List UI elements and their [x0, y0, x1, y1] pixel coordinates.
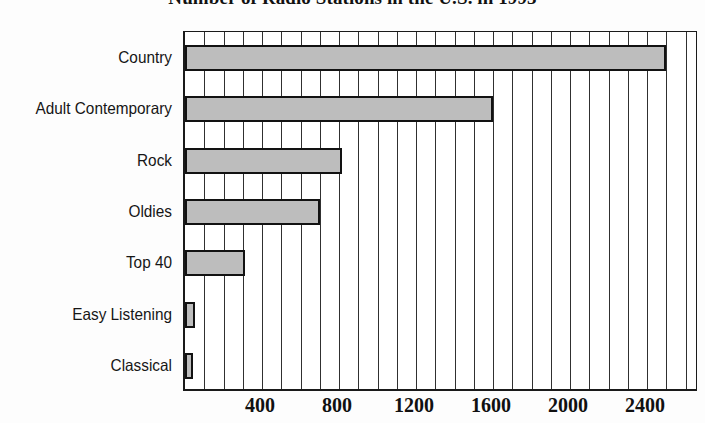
x-tick-label: 1200	[394, 394, 434, 417]
x-axis-tick-labels: 4008001200160020002400	[183, 394, 697, 423]
category-label: Easy Listening	[12, 306, 172, 323]
bar[interactable]	[185, 302, 195, 328]
category-axis: CountryAdult ContemporaryRockOldiesTop 4…	[0, 30, 178, 390]
category-label: Country	[12, 49, 172, 66]
bar-row	[185, 45, 696, 71]
x-tick-label: 800	[322, 394, 352, 417]
bar-chart: Number of Radio Stations in the U.S. in …	[0, 0, 705, 423]
category-label: Rock	[12, 152, 172, 169]
bar-row	[185, 302, 696, 328]
bar-row	[185, 148, 696, 174]
bar[interactable]	[185, 45, 666, 71]
category-label: Top 40	[12, 254, 172, 271]
x-tick-label: 400	[245, 394, 275, 417]
bar[interactable]	[185, 96, 493, 122]
bar-row	[185, 96, 696, 122]
x-tick-label: 1600	[471, 394, 511, 417]
category-label: Adult Contemporary	[12, 100, 172, 117]
bar[interactable]	[185, 353, 193, 379]
bar-rows	[185, 32, 696, 389]
category-label: Classical	[12, 357, 172, 374]
category-label: Oldies	[12, 203, 172, 220]
bar[interactable]	[185, 148, 342, 174]
x-tick-label: 2400	[625, 394, 665, 417]
x-tick-label: 2000	[548, 394, 588, 417]
chart-title: Number of Radio Stations in the U.S. in …	[0, 0, 705, 9]
plot-area	[183, 31, 697, 391]
bar-row	[185, 353, 696, 379]
bar-row	[185, 199, 696, 225]
bar[interactable]	[185, 199, 320, 225]
bar-row	[185, 250, 696, 276]
bar[interactable]	[185, 250, 245, 276]
